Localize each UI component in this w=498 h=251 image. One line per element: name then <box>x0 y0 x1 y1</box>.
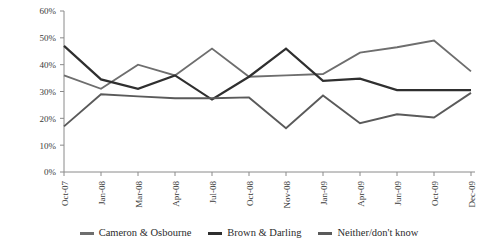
chart-plot-area: 0%10%20%30%40%50%60% Oct-07Jan-08Mar-08A… <box>0 0 498 251</box>
series-line <box>64 41 471 89</box>
x-axis-tick-label: Dec-09 <box>467 181 477 208</box>
legend-item[interactable]: Cameron & Osbourne <box>80 228 192 239</box>
legend-label: Cameron & Osbourne <box>99 228 192 239</box>
x-axis-tick-label: Apr-09 <box>356 181 366 207</box>
legend-color-swatch <box>318 232 332 235</box>
chart-legend: Cameron & OsbourneBrown & DarlingNeither… <box>0 228 498 239</box>
y-axis-tick-label: 30% <box>40 87 57 97</box>
x-axis-tick-label: Jan-08 <box>97 181 107 205</box>
y-axis-tick-label: 60% <box>40 6 57 16</box>
legend-label: Neither/don't know <box>337 228 418 239</box>
x-axis-tick-label: Nov-08 <box>282 181 292 209</box>
x-axis-tick-label: Jun-09 <box>393 181 403 206</box>
x-axis-tick-label: Oct-07 <box>60 181 70 206</box>
x-axis-tick-label: Oct-08 <box>245 181 255 206</box>
y-axis-tick-label: 20% <box>40 114 57 124</box>
x-axis-tick-label: Jul-08 <box>208 181 218 204</box>
x-axis-tick-label: Mar-08 <box>134 181 144 208</box>
x-axis: Oct-07Jan-08Mar-08Apr-08Jul-08Oct-08Nov-… <box>60 172 477 209</box>
y-axis-tick-label: 10% <box>40 141 57 151</box>
y-axis: 0%10%20%30%40%50%60% <box>40 6 65 177</box>
x-axis-tick-label: Apr-08 <box>171 181 181 207</box>
y-axis-tick-label: 40% <box>40 60 57 70</box>
legend-color-swatch <box>208 232 222 235</box>
series-line <box>64 93 471 128</box>
line-chart: 0%10%20%30%40%50%60% Oct-07Jan-08Mar-08A… <box>0 0 498 251</box>
y-axis-tick-label: 50% <box>40 33 57 43</box>
legend-color-swatch <box>80 232 94 235</box>
data-series-group <box>64 41 471 129</box>
legend-label: Brown & Darling <box>227 228 301 239</box>
x-axis-tick-label: Jan-09 <box>319 181 329 205</box>
legend-item[interactable]: Brown & Darling <box>208 228 301 239</box>
y-axis-tick-label: 0% <box>44 167 57 177</box>
legend-item[interactable]: Neither/don't know <box>318 228 418 239</box>
x-axis-tick-label: Oct-09 <box>430 181 440 206</box>
